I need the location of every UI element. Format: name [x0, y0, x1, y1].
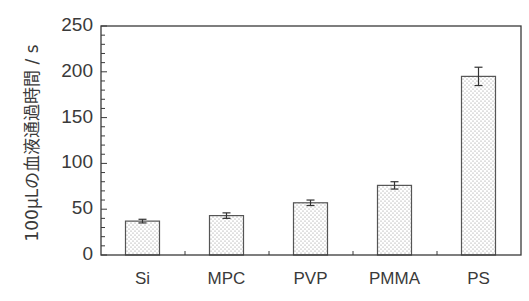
bar-chart: 100μLの血液通過時間 / s 050100150200250 SiMPCPV…	[0, 0, 529, 301]
y-tick-label: 100	[61, 151, 93, 172]
y-axis-ticks: 050100150200250	[61, 14, 107, 264]
bar-si	[126, 219, 160, 255]
y-tick-label: 150	[61, 106, 93, 127]
x-category-label: PS	[467, 269, 490, 288]
y-tick-label: 50	[72, 197, 93, 218]
bar-pvp	[294, 200, 328, 255]
y-tick-label: 200	[61, 60, 93, 81]
bar-ps	[462, 67, 496, 255]
bar-pmma	[378, 182, 412, 255]
y-tick-label: 0	[82, 243, 93, 264]
x-category-label: PVP	[293, 269, 327, 288]
x-category-label: PMMA	[369, 269, 421, 288]
bars	[126, 67, 496, 255]
y-axis-label: 100μLの血液通過時間 / s	[22, 44, 42, 241]
category-labels: SiMPCPVPPMMAPS	[135, 269, 490, 288]
y-tick-label: 250	[61, 14, 93, 35]
x-category-label: MPC	[208, 269, 246, 288]
bar-mpc	[210, 213, 244, 255]
x-category-label: Si	[135, 269, 150, 288]
